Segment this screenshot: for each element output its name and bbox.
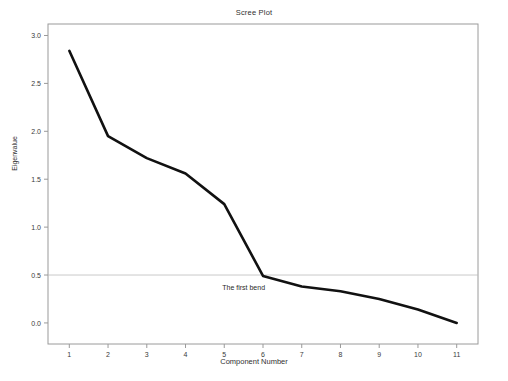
x-tick-label: 11 bbox=[453, 351, 460, 358]
x-tick-label: 2 bbox=[106, 351, 110, 358]
x-tick-label: 3 bbox=[145, 351, 149, 358]
x-axis-ticks: 1234567891011 bbox=[67, 344, 460, 358]
annotation-group: The first bend bbox=[222, 284, 265, 291]
x-tick-label: 5 bbox=[222, 351, 226, 358]
x-tick-label: 1 bbox=[67, 351, 71, 358]
x-tick-label: 10 bbox=[414, 351, 422, 358]
x-tick-label: 9 bbox=[377, 351, 381, 358]
y-tick-label: 1.0 bbox=[31, 224, 41, 231]
y-tick-label: 2.5 bbox=[31, 80, 41, 87]
y-axis-ticks: 0.00.51.01.52.02.53.0 bbox=[31, 32, 48, 326]
eigenvalue-line-series bbox=[69, 51, 456, 323]
y-tick-label: 1.5 bbox=[31, 176, 41, 183]
x-tick-label: 4 bbox=[184, 351, 188, 358]
x-tick-label: 6 bbox=[261, 351, 265, 358]
y-tick-label: 3.0 bbox=[31, 32, 41, 39]
y-tick-label: 0.0 bbox=[31, 320, 41, 327]
y-tick-label: 2.0 bbox=[31, 128, 41, 135]
eigenvalue-line bbox=[69, 51, 456, 323]
plot-frame bbox=[48, 24, 478, 344]
plot-area: 0.00.51.01.52.02.53.0 1234567891011 The … bbox=[0, 0, 508, 381]
scree-plot-figure: Scree Plot Eigenvalue Component Number 0… bbox=[0, 0, 508, 381]
y-tick-label: 0.5 bbox=[31, 272, 41, 279]
x-tick-label: 8 bbox=[339, 351, 343, 358]
first-bend-annotation: The first bend bbox=[222, 284, 265, 291]
x-tick-label: 7 bbox=[300, 351, 304, 358]
